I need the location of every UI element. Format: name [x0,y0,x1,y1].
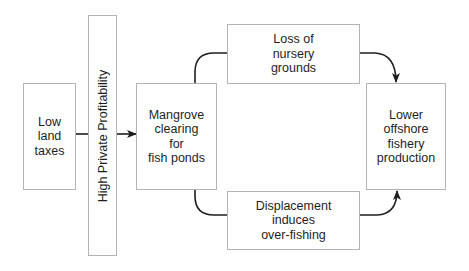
edge-mangrove-to-loss-curve [195,53,227,83]
node-low-land-taxes: Low land taxes [23,83,76,190]
node-text-line: induces [256,213,332,228]
node-loss-of-nursery-grounds: Loss of nursery grounds [227,24,360,84]
node-text-line: taxes [35,144,65,159]
node-text-line: offshore [377,122,435,137]
node-text-line: Mangrove [148,108,205,123]
edge-loss-to-lower-arrow [359,53,396,82]
node-text-line: grounds [271,61,316,76]
node-high-private-profitability: High Private Profitability [88,15,117,256]
node-text-line: land [35,129,65,144]
node-text-line: Lower [377,108,435,123]
node-vertical-label: High Private Profitability [96,69,110,202]
node-text-line: for [148,137,205,152]
node-text-line: nursery [271,47,316,62]
node-text-line: over-fishing [256,228,332,243]
edge-mangrove-to-displacement-curve [195,190,227,215]
node-lower-offshore-fishery-production: Lower offshore fishery production [366,83,446,190]
edge-displacement-to-lower-arrow [359,191,397,215]
node-text-line: fish ponds [148,151,205,166]
node-text-line: Loss of [271,32,316,47]
node-text-line: fishery [377,137,435,152]
node-text-line: Displacement [256,199,332,214]
node-text-line: clearing [148,122,205,137]
node-mangrove-clearing: Mangrove clearing for fish ponds [136,83,217,190]
node-displacement-over-fishing: Displacement induces over-fishing [227,191,360,250]
node-text-line: Low [35,115,65,130]
node-text-line: production [377,151,435,166]
